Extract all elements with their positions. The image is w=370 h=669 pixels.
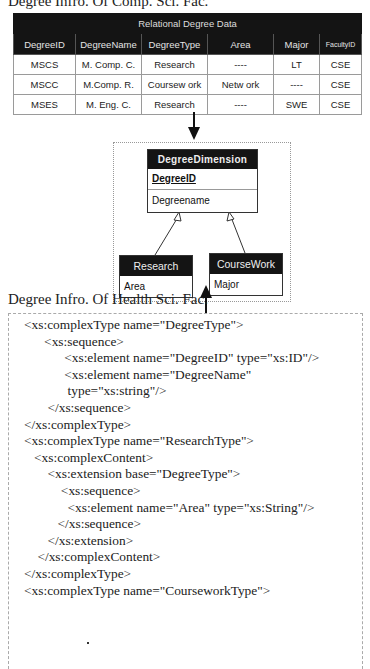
table-cell: Netw ork	[208, 75, 274, 95]
uml-class-title: DegreeDimension	[148, 150, 257, 169]
xsd-line: <xs:sequence>	[24, 334, 124, 349]
caption-health-sci: Degree Infro. Of Health Sci. Fac.	[8, 291, 208, 308]
uml-class-coursework: CourseWork Major	[209, 253, 283, 296]
xsd-line: <xs:element name="DegreeName"	[24, 367, 251, 382]
xsd-line: </xs:extension>	[24, 533, 133, 548]
column-header-area: Area	[208, 34, 274, 55]
table-row: MSES M. Eng. C. Research ---- SWE CSE	[14, 95, 362, 115]
table-cell: M. Eng. C.	[76, 95, 142, 115]
xsd-line: <xs:complexType name="CourseworkType">	[24, 583, 270, 598]
xsd-line: </xs:sequence>	[24, 400, 131, 415]
caption-comp-sci: Degree Infro. Of Comp. Sci. Fac.	[8, 0, 208, 10]
xsd-line: type="xs:string"/>	[24, 383, 166, 398]
table-cell: LT	[274, 55, 320, 75]
xsd-line: </xs:sequence>	[24, 516, 141, 531]
table-cell: MSES	[14, 95, 76, 115]
xsd-line: <xs:element name="DegreeID" type="xs:ID"…	[24, 350, 319, 365]
column-header-facultyid: FacultyID	[320, 34, 362, 55]
xsd-line: <xs:complexType name="DegreeType">	[24, 317, 243, 332]
table-cell: M.Comp. R.	[76, 75, 142, 95]
table-cell: Research	[142, 55, 208, 75]
table-cell: M. Comp. C.	[76, 55, 142, 75]
table-row: MSCS M. Comp. C. Research ---- LT CSE	[14, 55, 362, 75]
table-cell: MSCS	[14, 55, 76, 75]
xsd-schema-code: <xs:complexType name="DegreeType"> <xs:s…	[24, 317, 319, 599]
table-cell: ----	[274, 75, 320, 95]
uml-class-degree-dimension: DegreeDimension DegreeID Degreename	[147, 149, 258, 213]
arrow-down-icon	[188, 127, 200, 140]
column-header-degreeid: DegreeID	[14, 34, 76, 55]
xsd-line: <xs:complexContent>	[24, 450, 153, 465]
xsd-line: <xs:sequence>	[24, 483, 141, 498]
xsd-line: </xs:complexContent>	[24, 549, 160, 564]
table-cell: Coursew ork	[142, 75, 208, 95]
table-cell: CSE	[320, 95, 362, 115]
xsd-line: </xs:complexType>	[24, 417, 131, 432]
relational-degree-table: Relational Degree Data DegreeID DegreeNa…	[13, 13, 362, 115]
xsd-line: <xs:extension base="DegreeType">	[24, 466, 240, 481]
column-header-major: Major	[274, 34, 320, 55]
table-cell: MSCC	[14, 75, 76, 95]
table-cell: CSE	[320, 75, 362, 95]
table-cell: Research	[142, 95, 208, 115]
uml-attribute: Degreename	[148, 190, 257, 212]
table-row: MSCC M.Comp. R. Coursew ork Netw ork ---…	[14, 75, 362, 95]
uml-attribute: Major	[210, 274, 282, 295]
table-cell: ----	[208, 55, 274, 75]
table-cell: SWE	[274, 95, 320, 115]
uml-class-title: CourseWork	[210, 254, 282, 274]
continuation-dot	[87, 642, 89, 644]
table-cell: ----	[208, 95, 274, 115]
xsd-line: <xs:complexType name="ResearchType">	[24, 433, 254, 448]
uml-primary-key: DegreeID	[148, 169, 257, 190]
column-header-degreename: DegreeName	[76, 34, 142, 55]
table-title: Relational Degree Data	[14, 14, 362, 34]
table-cell: CSE	[320, 55, 362, 75]
xsd-line: <xs:element name="Area" type="xs:String"…	[24, 500, 314, 515]
uml-class-title: Research	[120, 256, 192, 276]
column-header-degreetype: DegreeType	[142, 34, 208, 55]
xsd-line: </xs:complexType>	[24, 566, 131, 581]
arrow-down-shaft	[193, 112, 195, 128]
